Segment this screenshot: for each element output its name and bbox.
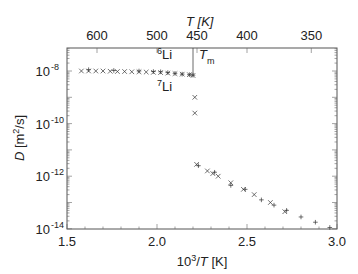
series-7li bbox=[79, 69, 287, 214]
label-tm: Tm bbox=[199, 47, 214, 66]
y-tick-exponent: -14 bbox=[51, 220, 64, 230]
top-tick-label: 500 bbox=[146, 28, 168, 43]
plot-frame bbox=[67, 48, 337, 229]
x-tick-label: 2.0 bbox=[148, 234, 166, 249]
top-axis-title: T [K] bbox=[186, 14, 213, 29]
top-tick-label: 350 bbox=[300, 28, 322, 43]
x-tick-label: 2.5 bbox=[238, 234, 256, 249]
y-tick-label: 10 bbox=[36, 64, 50, 79]
x-tick-label: 1.5 bbox=[58, 234, 76, 249]
top-tick-label: 400 bbox=[236, 28, 258, 43]
y-tick-exponent: -8 bbox=[51, 62, 59, 72]
y-tick-exponent: -12 bbox=[51, 167, 64, 177]
y-axis-title: D [m2/s] bbox=[11, 115, 27, 161]
y-tick-label: 10 bbox=[36, 117, 50, 132]
series-6li bbox=[86, 67, 332, 229]
x-tick-label: 3.0 bbox=[328, 234, 346, 249]
y-tick-exponent: -10 bbox=[51, 115, 64, 125]
y-tick-label: 10 bbox=[36, 169, 50, 184]
diffusion-chart: 1.52.02.53.060050045040035010-810-1010-1… bbox=[0, 0, 358, 274]
label-7li: 7Li bbox=[157, 78, 172, 94]
label-6li: 6Li bbox=[157, 46, 172, 62]
x-axis-title: 103/T [K] bbox=[177, 253, 228, 269]
top-tick-label: 450 bbox=[186, 28, 208, 43]
top-tick-label: 600 bbox=[86, 28, 108, 43]
y-tick-label: 10 bbox=[36, 222, 50, 237]
